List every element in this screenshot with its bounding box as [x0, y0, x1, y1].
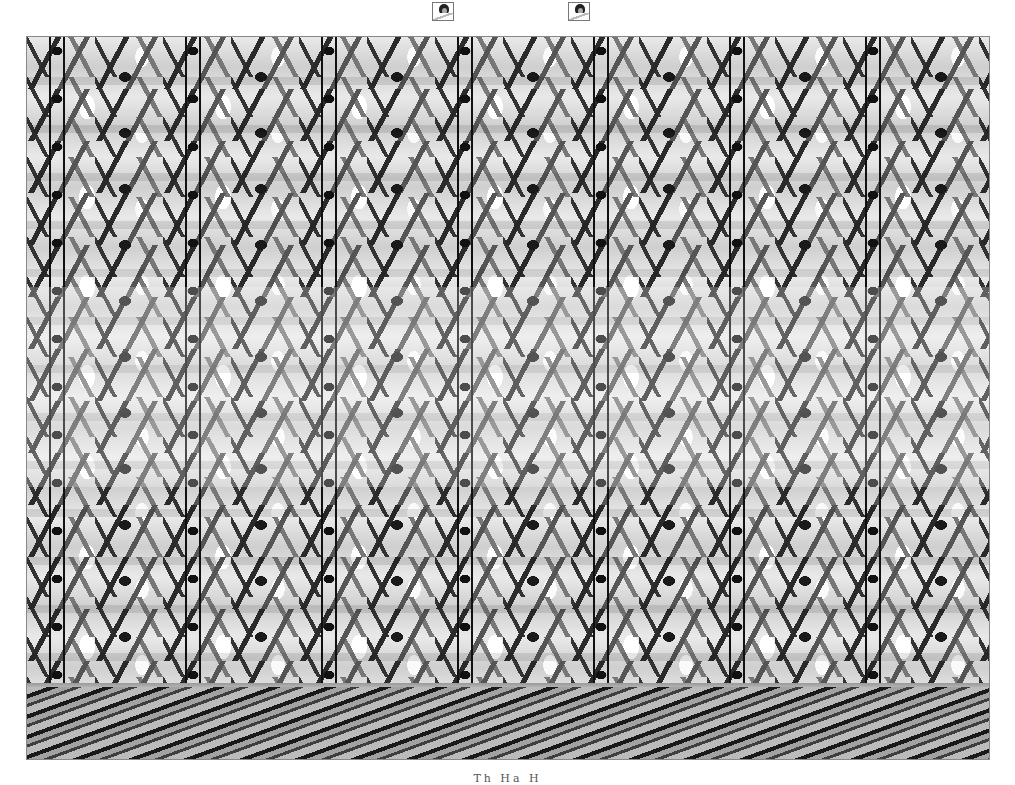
- floor-streak-band: [27, 687, 989, 760]
- mid-band-highlight: [27, 287, 989, 487]
- marker-body: [569, 13, 590, 20]
- right-guide-marker: [568, 2, 590, 21]
- stereogram-image: [26, 36, 990, 760]
- caption: Th Ha H: [0, 772, 1015, 785]
- left-guide-marker: [432, 2, 454, 21]
- marker-body: [433, 13, 454, 20]
